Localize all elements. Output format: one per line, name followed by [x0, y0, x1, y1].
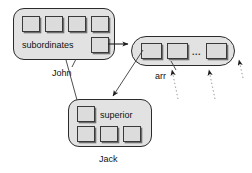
caption-john: John — [52, 69, 72, 78]
caption-jack: Jack — [99, 155, 118, 164]
leader-john-caption — [72, 59, 76, 67]
diagram-canvas: subordinates John ... arr superior Jack … — [0, 0, 252, 173]
arr-cell-1[interactable] — [141, 43, 162, 59]
jack-cell-3[interactable] — [123, 126, 141, 142]
john-field-label-subordinates: subordinates — [22, 41, 74, 50]
arr-ellipsis: ... — [192, 48, 201, 57]
object-arr[interactable]: ... — [131, 36, 235, 66]
jack-cell-2[interactable] — [100, 126, 118, 142]
arr-cell-3[interactable] — [206, 43, 227, 59]
connector-jack-superior-to-john — [66, 60, 77, 100]
john-subordinate-cell-3[interactable] — [68, 16, 86, 32]
arr-cell-2[interactable] — [167, 43, 188, 59]
jack-field-label-superior: superior — [100, 111, 133, 120]
object-john[interactable]: subordinates — [13, 8, 115, 60]
connector-arr-cell2-dangling — [172, 70, 178, 99]
jack-cell-1[interactable] — [77, 126, 95, 142]
jack-superior-pointer-cell[interactable] — [77, 106, 95, 122]
object-jack[interactable]: superior — [68, 99, 152, 147]
john-subordinate-cell-4[interactable] — [91, 16, 109, 32]
john-subordinate-cell-2[interactable] — [45, 16, 63, 32]
john-subordinate-cell-1[interactable] — [22, 16, 40, 32]
john-subordinates-pointer-cell[interactable] — [91, 37, 109, 53]
caption-arr: arr — [155, 72, 166, 81]
connector-arr-right-dangling — [239, 60, 243, 78]
connector-arr-cell3-dangling — [209, 70, 215, 99]
